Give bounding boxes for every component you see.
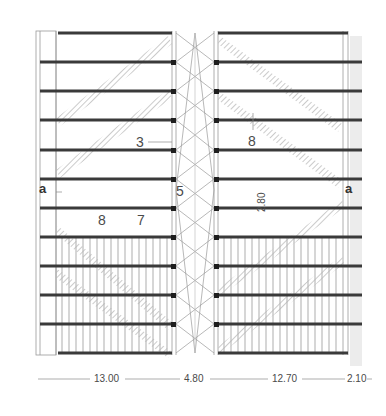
- right-edge-strip: [350, 36, 362, 366]
- section-marker-left: a: [39, 181, 46, 196]
- structural-plan-diagram: a a 3 8 5 8 7 2.80 13.00 4.80 12.70 2.10: [0, 0, 386, 416]
- callout-3: 3: [136, 134, 144, 150]
- callout-5: 5: [176, 183, 184, 199]
- callout-7: 7: [137, 212, 145, 228]
- dimension-12-70: 12.70: [272, 373, 297, 384]
- spacing-dimension: 2.80: [256, 193, 267, 212]
- section-marker-right: a: [345, 181, 352, 196]
- dimension-13: 13.00: [94, 373, 119, 384]
- plan-drawing: [0, 0, 386, 416]
- dimension-4-80: 4.80: [184, 373, 203, 384]
- callout-8-bottom: 8: [98, 212, 106, 228]
- dimension-2-10: 2.10: [347, 373, 366, 384]
- callout-8-top: 8: [248, 133, 256, 149]
